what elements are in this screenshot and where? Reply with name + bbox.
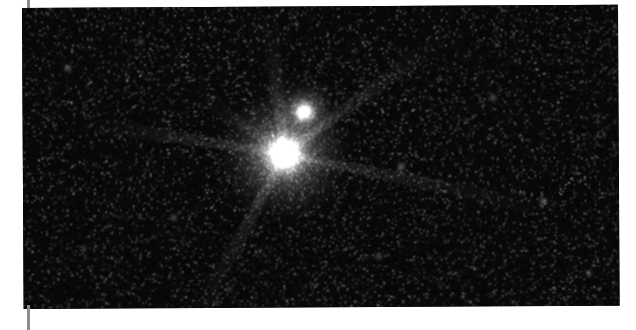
crop-tick-bottom-icon [27,305,30,330]
astronomical-image-frame [22,5,620,309]
sky-field-canvas [22,5,620,309]
figure-root [0,0,636,330]
